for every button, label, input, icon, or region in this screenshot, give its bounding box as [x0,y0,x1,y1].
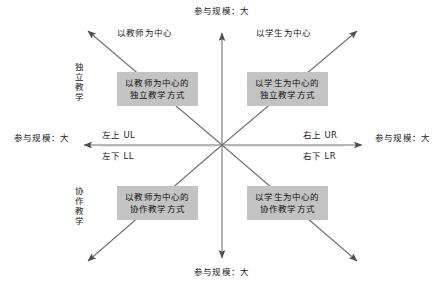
axis-rays [0,0,441,292]
column-header-student-centered: 以学生为中心 [256,28,311,39]
row-label-collaborative-teaching: 协作教学 [74,186,86,226]
row-label-independent-teaching: 独立教学 [74,62,86,102]
center-label-lower-right: 右下 LR [303,149,336,161]
quadrant-box-lower-right[interactable]: 以学生为中心的 协作教学方式 [247,186,328,220]
quadrant-box-upper-left-line2: 独立教学方式 [130,89,185,101]
quadrant-box-lower-right-line2: 协作教学方式 [260,203,315,215]
axis-label-top: 参与规模：大 [194,6,249,17]
diagram-canvas: 参与规模：大 参与规模：大 参与规模：大 参与规模：大 以教师为中心 以学生为中… [0,0,441,292]
quadrant-box-upper-right[interactable]: 以学生为中心的 独立教学方式 [247,72,328,106]
column-header-teacher-centered: 以教师为中心 [117,28,172,39]
center-label-upper-left: 左上 UL [102,128,135,140]
quadrant-box-lower-left-line1: 以教师为中心的 [125,191,189,203]
axis-label-right: 参与规模：大 [375,133,430,144]
quadrant-box-upper-left[interactable]: 以教师为中心的 独立教学方式 [117,72,198,106]
quadrant-box-upper-left-line1: 以教师为中心的 [125,77,189,89]
center-label-upper-right: 右上 UR [303,128,337,140]
quadrant-box-lower-left[interactable]: 以教师为中心的 协作教学方式 [117,186,198,220]
quadrant-box-lower-right-line1: 以学生为中心的 [255,191,319,203]
axis-label-left: 参与规模：大 [14,133,69,144]
quadrant-box-lower-left-line2: 协作教学方式 [130,203,185,215]
quadrant-box-upper-right-line2: 独立教学方式 [260,89,315,101]
axis-label-bottom: 参与规模：大 [194,267,249,278]
center-label-lower-left: 左下 LL [102,149,134,161]
quadrant-box-upper-right-line1: 以学生为中心的 [255,77,319,89]
